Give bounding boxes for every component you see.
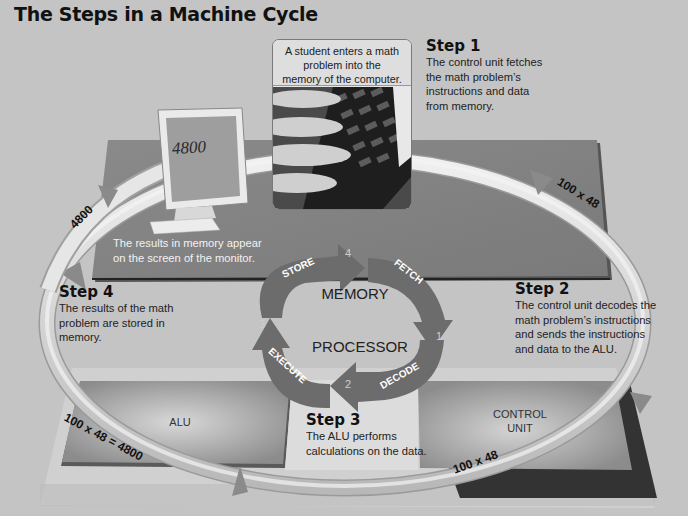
page-title: The Steps in a Machine Cycle <box>14 3 318 25</box>
step-4-callout: Step 4 The results of the math problem a… <box>59 284 173 345</box>
photo-caption: A student enters a math problem into the… <box>273 40 411 86</box>
keyboard-photo <box>273 87 411 209</box>
memory-label: MEMORY <box>310 285 400 302</box>
store-stage-number: 4 <box>345 247 351 259</box>
step-1-callout: Step 1 The control unit fetches the math… <box>426 38 542 113</box>
step-4-heading: Step 4 <box>59 284 173 301</box>
step-2-heading: Step 2 <box>515 281 656 298</box>
step-1-heading: Step 1 <box>426 38 542 55</box>
decode-stage-number: 2 <box>345 378 351 390</box>
fetch-stage-number: 1 <box>436 330 442 342</box>
alu-label: ALU <box>160 416 200 428</box>
execute-stage-number: 3 <box>259 318 265 330</box>
control-unit-label: CONTROL UNIT <box>480 407 560 435</box>
step-2-callout: Step 2 The control unit decodes the math… <box>515 281 656 356</box>
processor-label: PROCESSOR <box>300 338 420 355</box>
step-3-callout: Step 3 The ALU performs calculations on … <box>306 412 427 458</box>
student-photo-callout: A student enters a math problem into the… <box>272 39 412 210</box>
monitor-screen-value: 4800 <box>171 137 206 159</box>
monitor-caption: The results in memory appear on the scre… <box>113 236 262 265</box>
step-3-heading: Step 3 <box>306 412 427 429</box>
